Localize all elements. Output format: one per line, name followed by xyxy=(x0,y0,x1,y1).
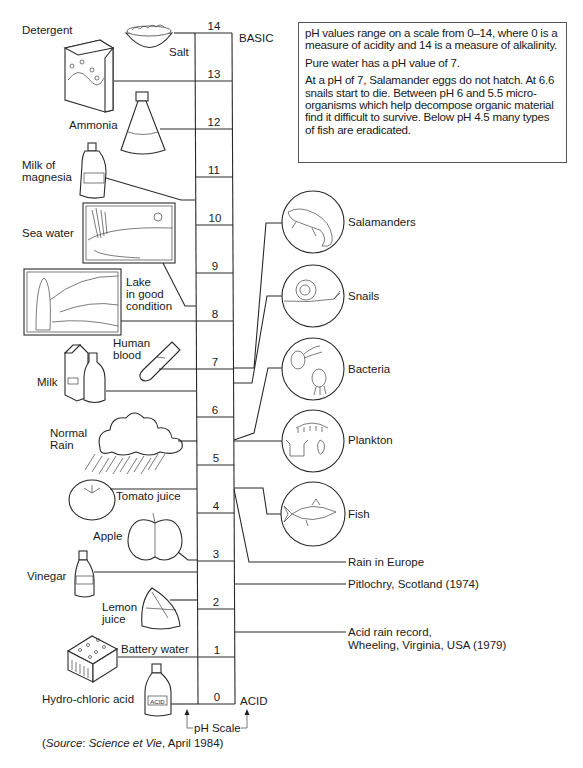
detergent-label: Detergent xyxy=(22,24,73,36)
ammonia-label: Ammonia xyxy=(69,119,118,131)
vinegar-bottle-icon xyxy=(75,551,94,597)
normal-rain-label-line1: Normal xyxy=(50,427,87,439)
lemon-juice-label-line1: Lemon xyxy=(102,601,137,613)
lemon-icon xyxy=(142,588,180,629)
human-blood-label-line2: blood xyxy=(113,349,141,361)
milk-of-magnesia-item: Milk of magnesia xyxy=(22,143,195,200)
source-citation: (Source: Science et Vie, April 1984) xyxy=(42,737,223,749)
tick-8: 8 xyxy=(212,308,218,320)
info-paragraph-effects: At a pH of 7, Salamander eggs do not hat… xyxy=(305,74,560,136)
milk-of-magnesia-bottle-icon xyxy=(80,143,106,198)
apple-item: Apple xyxy=(93,513,197,560)
bacteria-label: Bacteria xyxy=(348,363,391,375)
hydrochloric-acid-label: Hydro-chloric acid xyxy=(42,693,134,705)
detergent-box-icon xyxy=(65,40,113,112)
salamander-circle xyxy=(282,191,344,253)
sea-water-picture-icon xyxy=(83,203,175,263)
acid-label: ACID xyxy=(240,695,267,707)
acid-bottle-label: ACID xyxy=(150,699,165,705)
milk-carton-bottle-icon xyxy=(65,345,105,403)
tick-2: 2 xyxy=(213,596,219,608)
tick-14: 14 xyxy=(208,20,221,32)
pitlochry-label: Pitlochry, Scotland (1974) xyxy=(348,578,479,590)
lemon-juice-item: Lemon juice xyxy=(101,588,197,629)
tick-10: 10 xyxy=(209,212,222,224)
normal-rain-label-line2: Rain xyxy=(50,439,74,451)
ammonia-flask-icon xyxy=(121,92,165,154)
battery-water-label: Battery water xyxy=(121,643,189,655)
ph-scale-caption: pH Scale xyxy=(185,709,250,734)
tick-3: 3 xyxy=(213,548,219,560)
lake-label-line2: in good xyxy=(126,288,164,300)
lake-label-line3: condition xyxy=(126,300,172,312)
tomato-icon xyxy=(69,480,115,520)
tick-6: 6 xyxy=(212,404,218,416)
fish-label: Fish xyxy=(348,508,370,520)
plankton-item: Plankton xyxy=(234,410,393,472)
salt-label: Salt xyxy=(169,46,190,58)
bacteria-circle xyxy=(282,338,344,400)
plankton-label: Plankton xyxy=(348,434,393,446)
basic-label: BASIC xyxy=(239,32,274,44)
milk-of-magnesia-label-line1: Milk of xyxy=(22,159,56,171)
hydrochloric-acid-item: Hydro-chloric acid ACID xyxy=(42,664,198,716)
source-publication: Science et Vie xyxy=(89,737,162,749)
snails-label: Snails xyxy=(348,290,380,302)
lemon-juice-label-line2: juice xyxy=(101,613,126,625)
milk-label: Milk xyxy=(37,376,58,388)
acid-rain-record-label-line2: Wheeling, Virginia, USA (1979) xyxy=(348,639,506,651)
human-blood-item: Human blood xyxy=(113,337,196,381)
up-arrow-icon xyxy=(245,709,250,715)
vinegar-label: Vinegar xyxy=(27,570,67,582)
apple-label: Apple xyxy=(93,530,122,542)
tick-1: 1 xyxy=(214,644,220,656)
normal-rain-item: Normal Rain xyxy=(50,413,197,474)
snail-circle xyxy=(282,265,344,327)
lake-label-line1: Lake xyxy=(126,276,151,288)
info-paragraph-range: pH values range on a scale from 0–14, wh… xyxy=(305,27,560,52)
source-word: Source xyxy=(46,737,82,749)
info-box: pH values range on a scale from 0–14, wh… xyxy=(298,22,567,163)
tick-11: 11 xyxy=(208,164,220,176)
acid-rain-record-label-line1: Acid rain record, xyxy=(348,626,432,638)
lake-picture-icon xyxy=(24,269,121,335)
ph-tick-labels: 14 13 12 11 10 9 8 7 6 5 4 3 2 1 0 xyxy=(208,20,222,703)
battery-water-item: Battery water xyxy=(68,636,198,682)
tick-12: 12 xyxy=(208,116,221,128)
acid-bottle-icon: ACID xyxy=(145,664,171,716)
ph-scale-caption-text: pH Scale xyxy=(194,722,241,734)
tick-0: 0 xyxy=(214,691,220,703)
fish-circle xyxy=(281,482,345,546)
tick-5: 5 xyxy=(213,452,219,464)
human-blood-label-line1: Human xyxy=(113,337,150,349)
rain-in-europe-label: Rain in Europe xyxy=(348,556,424,568)
source-date: , April 1984) xyxy=(162,737,223,749)
fish-item: Fish xyxy=(234,482,370,546)
rain-cloud-icon xyxy=(85,413,182,474)
acid-rain-record-item: Acid rain record, Wheeling, Virginia, US… xyxy=(235,626,506,651)
info-paragraph-pure-water: Pure water has a pH value of 7. xyxy=(305,57,560,69)
tomato-juice-item: Tomato juice xyxy=(69,480,197,520)
tick-7: 7 xyxy=(212,356,218,368)
salamanders-label: Salamanders xyxy=(348,216,416,228)
plankton-circle xyxy=(282,410,344,472)
tick-9: 9 xyxy=(212,260,218,272)
up-arrow-icon xyxy=(185,709,190,715)
apple-icon xyxy=(128,513,182,560)
tick-4: 4 xyxy=(213,500,220,512)
tomato-juice-label: Tomato juice xyxy=(116,490,181,502)
battery-icon xyxy=(68,636,117,682)
salt-item: Salt xyxy=(126,25,195,58)
tick-13: 13 xyxy=(208,68,221,80)
lake-item: Lake in good condition xyxy=(24,269,196,335)
sea-water-label: Sea water xyxy=(22,227,74,239)
milk-of-magnesia-label-line2: magnesia xyxy=(22,171,72,183)
pitlochry-item: Pitlochry, Scotland (1974) xyxy=(235,578,479,590)
